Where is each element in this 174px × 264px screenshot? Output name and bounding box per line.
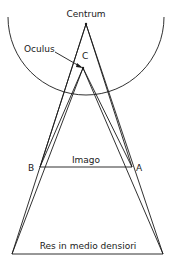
label-res: Res in medio densiori xyxy=(40,241,137,251)
ray-centrum-right-a xyxy=(86,24,132,167)
label-oculus: Oculus xyxy=(24,44,55,54)
ray-oculus-a xyxy=(83,68,132,167)
ray-oculus-b xyxy=(40,68,83,167)
label-centrum: Centrum xyxy=(66,9,105,19)
oculus-arrowhead-icon xyxy=(76,63,83,68)
label-imago: Imago xyxy=(72,155,101,165)
label-point-a: A xyxy=(136,163,143,173)
oculus-point xyxy=(82,67,84,69)
label-point-c: C xyxy=(82,51,88,61)
label-point-b: B xyxy=(28,163,34,173)
centrum-point xyxy=(85,23,87,25)
optics-diagram: Centrum Oculus C Imago B A Res in medio … xyxy=(0,0,174,264)
